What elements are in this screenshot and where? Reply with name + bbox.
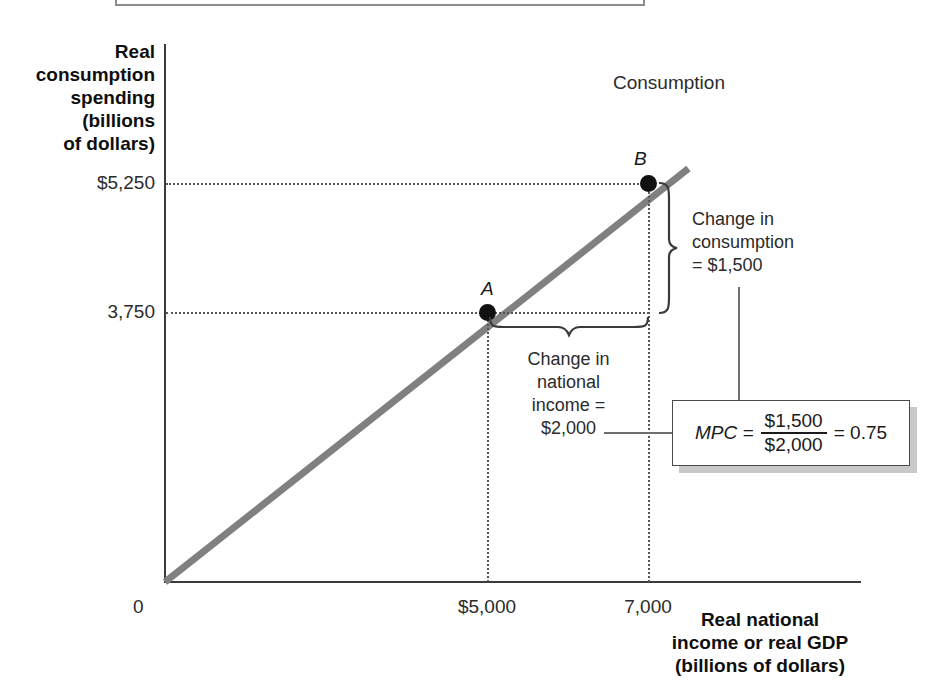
mpc-denominator: $2,000 [761, 434, 827, 455]
annotation-income-line-1: Change in [466, 348, 671, 371]
annotation-consumption-line-3: = $1,500 [692, 254, 862, 277]
annotation-change-in-consumption: Change in consumption = $1,500 [692, 208, 862, 277]
guide-line-horizontal-5250 [166, 183, 650, 185]
annotation-consumption-line-2: consumption [692, 231, 862, 254]
figure-top-border [115, 0, 645, 6]
annotation-income-line-2: national [466, 371, 671, 394]
annotation-consumption-line-1: Change in [692, 208, 862, 231]
brace-change-in-national-income [488, 313, 652, 341]
y-tick-label-5250: $5,250 [30, 172, 155, 194]
x-axis-title: Real national income or real GDP (billio… [610, 608, 910, 677]
y-axis-title-line-2: consumption [0, 63, 155, 86]
mpc-result: = 0.75 [834, 422, 887, 444]
mpc-formula-box: MPC = $1,500 $2,000 = 0.75 [672, 400, 910, 466]
annotation-income-line-4: $2,000 [466, 417, 671, 440]
annotation-income-line-3: income = [466, 394, 671, 417]
x-axis-title-line-2: income or real GDP [610, 631, 910, 654]
x-axis-line [164, 581, 861, 583]
x-tick-label-7000: 7,000 [603, 596, 693, 618]
y-axis-title: Real consumption spending (billions of d… [0, 40, 155, 155]
data-point-b-label: B [634, 148, 647, 170]
leader-line-income-to-mpc [604, 432, 673, 434]
y-axis-title-line-3: spending [0, 86, 155, 109]
annotation-change-in-national-income: Change in national income = $2,000 [466, 348, 671, 440]
y-axis-title-line-4: (billions [0, 109, 155, 132]
mpc-numerator: $1,500 [761, 411, 827, 432]
consumption-curve-label: Consumption [613, 72, 725, 94]
x-tick-label-5000: $5,000 [437, 596, 537, 618]
figure-canvas: Real consumption spending (billions of d… [0, 0, 925, 690]
mpc-fraction: $1,500 $2,000 [761, 411, 827, 455]
x-axis-title-line-3: (billions of dollars) [610, 654, 910, 677]
leader-line-consumption-to-mpc [738, 287, 740, 400]
y-axis-title-line-5: of dollars) [0, 132, 155, 155]
data-point-a-label: A [481, 278, 494, 300]
mpc-label: MPC = [695, 422, 754, 444]
brace-change-in-consumption [655, 181, 685, 315]
y-axis-title-line-1: Real [0, 40, 155, 63]
y-tick-label-3750: 3,750 [30, 301, 155, 323]
origin-tick-label: 0 [133, 596, 144, 618]
